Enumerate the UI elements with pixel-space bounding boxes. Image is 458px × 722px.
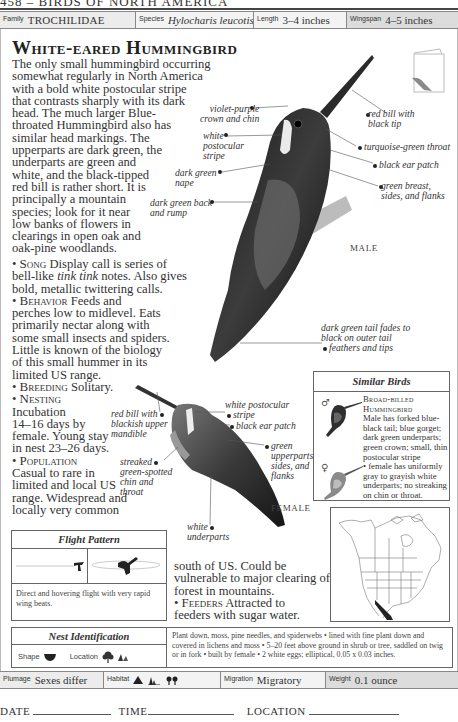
time-field[interactable] bbox=[148, 706, 234, 715]
callout-dot bbox=[373, 164, 377, 168]
length-cell: Length3–4 inches bbox=[254, 12, 347, 28]
callout-female-stripe: white postocular stripe bbox=[225, 400, 289, 420]
callout-text: underparts bbox=[187, 532, 229, 542]
cup-nest-icon bbox=[44, 653, 56, 661]
callout-dot bbox=[358, 146, 362, 150]
callout-dot bbox=[210, 526, 214, 530]
flight-pattern-box: Flight Pattern Direct and hovering fligh… bbox=[11, 530, 167, 621]
top-info-bar: FamilyTROCHILIDAE SpeciesHylocharis leuc… bbox=[0, 11, 458, 29]
callout-breast: green breast, sides, and flanks bbox=[381, 181, 445, 201]
range-map bbox=[330, 507, 450, 622]
location-label: LOCATION bbox=[247, 705, 306, 717]
family-cell: FamilyTROCHILIDAE bbox=[0, 12, 136, 28]
similar-birds-title: Similar Birds bbox=[314, 372, 449, 392]
date-field[interactable] bbox=[33, 706, 111, 715]
plumage-label: Plumage bbox=[3, 675, 31, 682]
forest-edge-icon bbox=[148, 676, 160, 685]
weight-cell: Weight0.1 ounce bbox=[326, 672, 458, 688]
nest-identification-title: Nest Identification bbox=[12, 628, 166, 645]
callout-bill: red bill with black tip bbox=[368, 109, 415, 129]
callout-dot bbox=[250, 106, 254, 110]
family-label: Family bbox=[3, 15, 24, 22]
callout-text: nape bbox=[175, 178, 216, 188]
direct-flight-diagram bbox=[12, 549, 88, 583]
callout-text: and rump bbox=[150, 208, 212, 218]
hovering-flight-diagram bbox=[88, 549, 166, 583]
shape-label: Shape bbox=[18, 652, 40, 661]
callout-dot bbox=[265, 445, 269, 449]
male-label: MALE bbox=[350, 243, 378, 253]
length-label: Length bbox=[257, 15, 278, 22]
time-label: TIME bbox=[119, 705, 148, 717]
flight-pattern-diagrams bbox=[12, 549, 166, 584]
callout-text: sides, and flanks bbox=[381, 191, 445, 201]
intro-line: throated Hummingbird also has bbox=[12, 119, 211, 131]
shrub-icon bbox=[102, 651, 114, 663]
tree-fork-icon bbox=[117, 652, 129, 662]
observation-log: DATE TIME LOCATION bbox=[0, 705, 458, 717]
callout-dot bbox=[224, 133, 228, 137]
female-label: FEMALE bbox=[271, 503, 311, 513]
callout-dot bbox=[227, 414, 231, 418]
wingspan-cell: Wingspan4–5 inches bbox=[347, 12, 458, 28]
habitat-cell: Habitat bbox=[104, 672, 221, 688]
callout-nape: dark green nape bbox=[175, 168, 216, 188]
species-title: White-eared Hummingbird bbox=[12, 37, 237, 59]
habitat-label: Habitat bbox=[107, 675, 129, 682]
migration-cell: MigrationMigratory bbox=[221, 672, 326, 688]
similar-desc-line: on chin or throat. bbox=[363, 491, 449, 501]
woodland-icon bbox=[166, 676, 178, 685]
nest-identification-box: Nest Identification Shape Location Plant… bbox=[11, 627, 453, 668]
callout-ear-patch: black ear patch bbox=[371, 160, 439, 170]
breeding-text: Solitary. bbox=[71, 380, 113, 394]
location-field[interactable] bbox=[309, 706, 399, 715]
callout-female-bill: red bill with blackish upper mandible bbox=[111, 409, 168, 439]
callout-dot bbox=[154, 461, 158, 465]
callout-dot bbox=[160, 413, 164, 417]
similar-female-bird-icon bbox=[322, 464, 364, 502]
nesting-section: • Nesting bbox=[12, 393, 187, 405]
wingspan-label: Wingspan bbox=[350, 15, 381, 22]
weight-value: 0.1 ounce bbox=[355, 674, 398, 686]
callout-dot bbox=[323, 347, 327, 351]
callout-tail: dark green tail fades to black on outer … bbox=[321, 323, 410, 353]
plumage-value: Sexes differ bbox=[35, 674, 88, 686]
population-text: locally very common bbox=[12, 504, 187, 516]
behavior-text: primarily nectar along with bbox=[12, 319, 187, 331]
callout-female-underparts: white underparts bbox=[187, 522, 229, 542]
mountain-icon bbox=[133, 676, 143, 684]
similar-birds-description: Broad-billed Hummingbird Male has forked… bbox=[363, 395, 449, 501]
date-label: DATE bbox=[0, 705, 30, 717]
nest-description: Plant down, moss, pine needles, and spid… bbox=[167, 628, 452, 667]
continued-column: south of US. Could be vulnerable to majo… bbox=[174, 560, 330, 621]
behavior-text: of this small hummer in its bbox=[12, 356, 187, 368]
species-value: Hylocharis leucotis bbox=[168, 14, 254, 26]
feeders-text: feeders with sugar water. bbox=[174, 609, 330, 621]
callout-text: feathers and tips bbox=[329, 342, 393, 353]
species-label: Species bbox=[139, 15, 164, 22]
flight-pattern-description: Direct and hovering flight with very rap… bbox=[12, 584, 166, 614]
nest-shape-row: Shape Location bbox=[12, 645, 166, 668]
song-text: bell-like tink tink notes. Also gives bbox=[12, 270, 187, 282]
location-label: Location bbox=[70, 652, 98, 661]
callout-back: dark green back and rump bbox=[150, 198, 212, 218]
intro-paragraph: The only small hummingbird occurring som… bbox=[12, 58, 211, 255]
callout-text: stripe bbox=[203, 151, 244, 161]
callout-text: black ear patch bbox=[236, 420, 296, 431]
callout-throat: turquoise-green throat bbox=[356, 142, 450, 152]
similar-male-bird-icon bbox=[322, 399, 364, 439]
callout-text: throat bbox=[120, 487, 172, 497]
callout-female-ear-patch: black ear patch bbox=[228, 421, 296, 431]
population-text: vulnerable to major clearing of bbox=[174, 572, 330, 584]
callout-text: mandible bbox=[111, 429, 168, 439]
length-value: 3–4 inches bbox=[282, 14, 329, 26]
wingspan-value: 4–5 inches bbox=[385, 14, 432, 26]
migration-label: Migration bbox=[224, 675, 253, 682]
intro-line: somewhat regularly in North America bbox=[12, 70, 211, 82]
callout-text: stripe bbox=[233, 409, 255, 420]
callout-dot bbox=[218, 170, 222, 174]
flight-pattern-title: Flight Pattern bbox=[12, 531, 166, 549]
north-america-map bbox=[331, 508, 449, 621]
header-rule bbox=[0, 8, 458, 10]
callout-text: black tip bbox=[368, 119, 415, 129]
